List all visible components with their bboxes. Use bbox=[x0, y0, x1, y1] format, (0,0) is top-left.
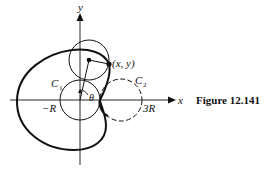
figure-caption: Figure 12.141 bbox=[196, 94, 260, 106]
rolling-center-dot bbox=[87, 58, 92, 63]
y-axis-label: y bbox=[77, 1, 83, 13]
x-axis-label: x bbox=[177, 94, 183, 106]
c1-label: C bbox=[51, 77, 59, 89]
c2-label: C bbox=[135, 74, 143, 86]
tracing-point-dot bbox=[106, 61, 111, 66]
theta-label: θ bbox=[89, 92, 94, 103]
cardioid-diagram: y x (x, y) C 1 C 2 θ −R 3R Figure 12.141 bbox=[0, 0, 274, 176]
c1-subscript: 1 bbox=[59, 84, 63, 92]
c2-subscript: 2 bbox=[143, 81, 147, 89]
neg-r-label: −R bbox=[42, 102, 56, 114]
y-axis-arrow-icon bbox=[77, 13, 84, 21]
x-axis-arrow-icon bbox=[168, 97, 176, 104]
theta-arrow-icon bbox=[78, 89, 82, 93]
point-label: (x, y) bbox=[112, 57, 135, 70]
three-r-label: 3R bbox=[142, 102, 156, 114]
